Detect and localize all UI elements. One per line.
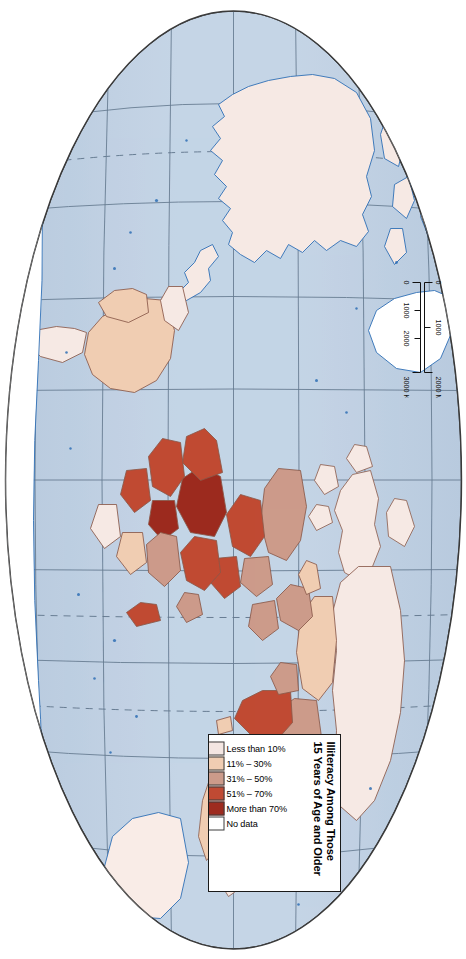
legend-title-line-1: Illiteracy Among Those (323, 741, 336, 886)
legend-label-less-than-10: Less than 10% (226, 743, 298, 754)
legend-swatch-more-than-70 (208, 801, 224, 815)
map-legend: Illiteracy Among Those 15 Years of Age a… (208, 734, 341, 892)
legend-items: Less than 10% 11% – 30% 31% – 50% 51% – … (208, 741, 298, 886)
legend-item-more-than-70: More than 70% (208, 801, 298, 815)
scale-label-kilometers: 3000 Kilometers (401, 376, 410, 397)
legend-title-line-2: 15 Years of Age and Older (310, 741, 323, 886)
scale-tick-km-0: 0 (401, 280, 410, 284)
legend-item-less-than-10: Less than 10% (208, 741, 298, 755)
legend-label-more-than-70: More than 70% (226, 803, 298, 814)
scale-bar: 0 1000 2000 Miles 0 1000 2000 3000 Kilom… (390, 272, 454, 397)
scale-tick-miles-1000: 1000 (433, 319, 442, 335)
scale-tick-miles-0: 0 (433, 280, 442, 284)
legend-swatch-31-50 (208, 771, 224, 785)
legend-swatch-11-30 (208, 756, 224, 770)
scale-label-miles: 2000 Miles (433, 376, 442, 397)
illiteracy-world-map: 0 1000 2000 Miles 0 1000 2000 3000 Kilom… (0, 0, 466, 959)
legend-label-51-70: 51% – 70% (226, 788, 298, 799)
legend-label-no-data: No data (226, 818, 298, 829)
scale-bar-rotator: 0 1000 2000 Miles 0 1000 2000 3000 Kilom… (390, 272, 454, 397)
legend-item-51-70: 51% – 70% (208, 786, 298, 800)
scale-bar-miles (424, 282, 432, 372)
legend-label-11-30: 11% – 30% (226, 758, 298, 769)
legend-item-31-50: 31% – 50% (208, 771, 298, 785)
legend-item-no-data: No data (208, 816, 298, 830)
legend-title: Illiteracy Among Those 15 Years of Age a… (310, 741, 336, 886)
legend-swatch-less-than-10 (208, 741, 224, 755)
legend-swatch-no-data (208, 816, 224, 830)
legend-item-11-30: 11% – 30% (208, 756, 298, 770)
map-legend-rotator: Illiteracy Among Those 15 Years of Age a… (209, 735, 340, 891)
scale-bar-kilometers (412, 282, 420, 372)
legend-swatch-51-70 (208, 786, 224, 800)
scale-tick-km-1000: 1000 (401, 302, 410, 318)
scale-tick-km-2000: 2000 (401, 330, 410, 346)
legend-label-31-50: 31% – 50% (226, 773, 298, 784)
